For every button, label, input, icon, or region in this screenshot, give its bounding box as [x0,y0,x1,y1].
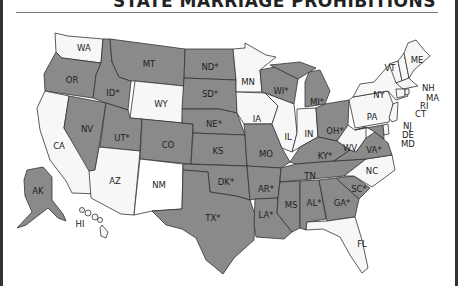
label-mi: MI* [310,97,324,107]
label-in: IN [305,129,314,139]
label-wv: WV [343,143,357,153]
state-ri[interactable] [405,89,409,95]
label-co: CO [162,140,175,150]
label-nm: NM [152,180,166,190]
label-ak: AK [32,186,44,196]
label-az: AZ [109,176,121,186]
label-pa: PA [367,112,378,122]
label-mo: MO [259,149,273,159]
label-wa: WA [77,43,91,53]
label-tn: TN [303,171,316,181]
label-me: ME [411,55,424,65]
label-vt: VT [384,63,396,73]
label-nv: NV [81,124,93,134]
label-ok: DK* [218,177,234,187]
label-sc: SC* [351,184,367,194]
label-va: VA* [366,145,381,155]
label-ct: CT [415,109,427,119]
state-ak[interactable] [17,167,66,228]
label-oh: OH* [326,126,343,136]
label-id: ID* [106,88,119,98]
label-ky: KY* [318,151,333,161]
label-ca: CA [53,141,65,151]
label-mn: MN [241,77,255,87]
label-or: OR [66,75,79,85]
label-fl: FL [357,239,367,249]
label-sd: SD* [202,89,218,99]
label-nh: NH [422,83,435,93]
label-ar: AR* [258,184,274,194]
label-mt: MT [143,59,156,69]
label-wy: WY [154,99,168,109]
label-md: MD [401,139,415,149]
label-il: IL [284,132,292,142]
label-ut: UT* [114,133,130,143]
label-wi: WI* [273,86,288,96]
label-ny: NY [373,90,385,100]
state-de[interactable] [383,124,389,135]
label-ia: IA [253,114,262,124]
label-tx: TX* [204,213,220,223]
label-ne: NE* [206,119,222,129]
label-ga: GA* [334,198,351,208]
state-ct[interactable] [396,89,405,98]
label-la: LA* [259,210,274,220]
us-map: .dark { fill:#8a8a8a; } .light { fill:#f… [0,0,458,286]
label-al: AL* [307,198,322,208]
label-ms: MS [285,200,298,210]
label-nc: NC [366,166,378,176]
label-nd: ND* [201,62,218,72]
label-ks: KS [213,146,224,156]
label-hi: HI [76,219,85,229]
